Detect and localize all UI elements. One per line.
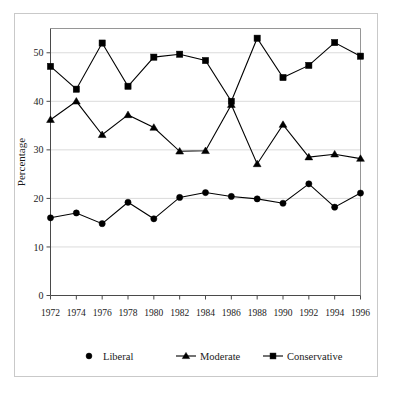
data-point-conservative-1986 [228,98,234,104]
data-point-conservative-1994 [332,39,338,45]
x-tick-label-1990: 1990 [274,308,293,318]
data-point-liberal-1996 [357,190,363,196]
x-tick-label-1994: 1994 [325,308,344,318]
y-tick-label-20: 20 [34,193,44,204]
x-tick-label-1984: 1984 [196,308,215,318]
data-point-conservative-1990 [280,74,286,80]
y-tick-label-30: 30 [34,144,44,155]
legend-item-moderate[interactable]: Moderate [176,351,241,362]
legend-item-liberal[interactable]: Liberal [86,351,133,362]
y-axis-title: Percentage [15,138,27,186]
data-point-moderate-1994 [331,150,339,157]
x-axis: 1972197419761978198019821984198619881990… [41,296,370,318]
data-point-liberal-1972 [47,215,53,221]
y-axis-title-text: Percentage [15,138,27,186]
series-liberal [47,181,363,227]
x-tick-label-1976: 1976 [93,308,112,318]
data-point-liberal-1994 [332,204,338,210]
data-point-liberal-1984 [202,189,208,195]
data-point-conservative-1972 [47,63,53,69]
line-chart: 01020304050 1972197419761978198019821984… [0,0,394,395]
x-tick-label-1986: 1986 [222,308,241,318]
data-point-liberal-1980 [151,216,157,222]
data-point-liberal-1976 [99,221,105,227]
data-point-conservative-1992 [306,62,312,68]
x-tick-label-1980: 1980 [144,308,163,318]
series-line-conservative [51,38,361,101]
legend-label-conservative: Conservative [287,351,343,362]
legend-marker-circle-icon [86,353,92,359]
data-point-moderate-1974 [72,98,80,105]
data-point-liberal-1978 [125,199,131,205]
legend-marker-square-icon [270,353,276,359]
data-point-conservative-1974 [73,86,79,92]
legend-label-liberal: Liberal [103,351,133,362]
chart-figure: 01020304050 1972197419761978198019821984… [0,0,394,395]
series-line-moderate [51,101,361,164]
x-tick-label-1982: 1982 [170,308,189,318]
data-point-conservative-1988 [254,35,260,41]
x-tick-label-1974: 1974 [67,308,86,318]
y-tick-label-40: 40 [34,96,44,107]
y-tick-label-10: 10 [34,242,44,253]
data-point-conservative-1982 [177,51,183,57]
data-point-moderate-1978 [124,111,132,118]
chart-legend: LiberalModerateConservative [86,351,343,362]
data-series-group [47,35,365,227]
y-tick-label-0: 0 [39,290,44,301]
data-point-moderate-1980 [150,124,158,131]
data-point-liberal-1982 [177,194,183,200]
data-point-conservative-1984 [202,57,208,63]
data-point-liberal-1974 [73,210,79,216]
x-tick-label-1988: 1988 [248,308,267,318]
x-tick-label-1972: 1972 [41,308,60,318]
data-point-conservative-1996 [357,53,363,59]
data-point-liberal-1988 [254,196,260,202]
legend-item-conservative[interactable]: Conservative [263,351,343,362]
data-point-liberal-1990 [280,200,286,206]
plot-area-border [51,29,361,296]
data-point-liberal-1986 [228,193,234,199]
series-conservative [47,35,363,104]
data-point-conservative-1976 [99,40,105,46]
data-point-moderate-1984 [202,147,210,154]
x-tick-label-1996: 1996 [351,308,370,318]
y-tick-label-50: 50 [34,47,44,58]
data-point-conservative-1978 [125,83,131,89]
data-point-moderate-1990 [279,121,287,128]
data-point-conservative-1980 [151,54,157,60]
series-moderate [47,98,365,167]
x-tick-label-1978: 1978 [119,308,138,318]
x-tick-label-1992: 1992 [299,308,318,318]
legend-label-moderate: Moderate [200,351,241,362]
data-point-moderate-1972 [47,116,55,123]
data-point-moderate-1988 [253,160,261,167]
data-point-liberal-1992 [306,181,312,187]
